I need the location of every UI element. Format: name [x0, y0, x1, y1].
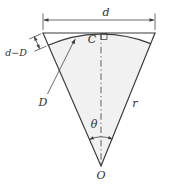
label-D: D [38, 96, 48, 109]
diagram-canvas: d d−D C D r θ O [0, 0, 170, 185]
dim-d-right-arrow-icon [150, 18, 155, 22]
label-r: r [132, 97, 138, 110]
label-O: O [96, 169, 105, 182]
cone-sector-diagram: d d−D C D r θ O [0, 0, 170, 185]
label-chord-d: d [102, 6, 109, 19]
label-C: C [88, 33, 97, 46]
label-theta: θ [91, 118, 98, 131]
dim-d-left-arrow-icon [44, 18, 49, 22]
dim-dmd-down-arrow-icon [36, 44, 39, 49]
label-d-minus-D: d−D [5, 47, 27, 58]
dim-dmd-lower-ext [34, 46, 46, 51]
dim-dmd-up-arrow-icon [34, 36, 37, 41]
